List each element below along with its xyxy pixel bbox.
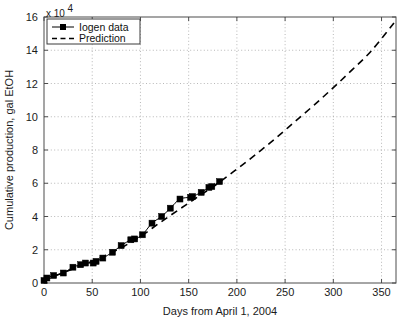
y-axis-exponent-label: x 10 xyxy=(46,8,65,19)
x-tick-label: 150 xyxy=(179,286,197,298)
chart-legend[interactable]: Iogen dataPrediction xyxy=(47,19,140,44)
x-axis-label: Days from April 1, 2004 xyxy=(163,305,277,317)
y-tick-label: 6 xyxy=(32,177,38,189)
y-axis-exponent-power: 4 xyxy=(68,3,74,14)
legend-label-prediction[interactable]: Prediction xyxy=(79,32,126,44)
y-tick-label: 0 xyxy=(32,277,38,289)
x-tick-label: 300 xyxy=(324,286,342,298)
y-tick-label: 12 xyxy=(26,78,38,90)
x-tick-label: 100 xyxy=(131,286,149,298)
x-tick-label: 200 xyxy=(228,286,246,298)
data-point-marker xyxy=(167,205,173,211)
chart-figure: 0501001502002503003500246810121416 Iogen… xyxy=(0,0,411,325)
data-point-marker xyxy=(177,196,183,202)
legend-label-iogen-data[interactable]: Iogen data xyxy=(79,21,129,33)
cumulative-production-chart: 0501001502002503003500246810121416 Iogen… xyxy=(0,0,411,325)
data-point-marker xyxy=(159,214,165,220)
data-point-marker xyxy=(118,243,124,249)
x-tick-label: 250 xyxy=(276,286,294,298)
legend-sample-square-marker xyxy=(60,24,66,30)
y-tick-label: 4 xyxy=(32,211,38,223)
x-tick-label: 50 xyxy=(86,286,98,298)
x-tick-label: 0 xyxy=(41,286,47,298)
y-tick-label: 10 xyxy=(26,111,38,123)
x-tick-label: 350 xyxy=(372,286,390,298)
y-tick-label: 2 xyxy=(32,244,38,256)
y-tick-label: 16 xyxy=(26,11,38,23)
y-tick-label: 14 xyxy=(26,44,38,56)
y-tick-label: 8 xyxy=(32,144,38,156)
y-axis-label: Cumulative production, gal EtOH xyxy=(3,70,15,230)
data-point-marker xyxy=(149,220,155,226)
